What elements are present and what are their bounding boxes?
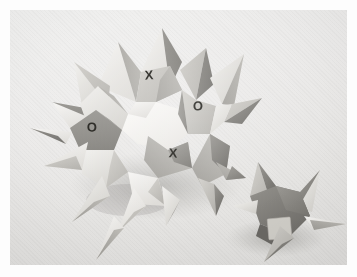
photo-page: X O O X xyxy=(0,0,357,277)
photo-vignette xyxy=(10,10,347,265)
photograph: X O O X xyxy=(10,10,347,265)
